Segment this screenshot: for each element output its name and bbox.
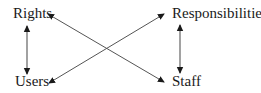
node-responsibilities: Responsibilities: [172, 5, 261, 21]
node-rights: Rights: [13, 5, 52, 21]
node-staff: Staff: [172, 73, 201, 89]
node-users: Users: [15, 73, 49, 89]
diagram-canvas: Rights Responsibilities Users Staff: [0, 0, 261, 93]
relationship-diagram: Rights Responsibilities Users Staff: [0, 0, 261, 93]
